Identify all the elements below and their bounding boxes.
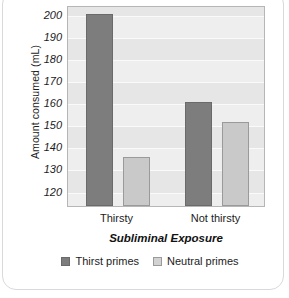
y-axis-tick-label: 190 (44, 31, 62, 43)
bar-chart-figure: Amount consumed (mL) 1201301401501601701… (0, 0, 289, 298)
bar-series-group (68, 7, 264, 206)
legend-item-label: Neutral primes (167, 255, 239, 267)
y-axis-tick-labels: 120130140150160170180190200 (0, 0, 67, 213)
legend-item-neutral-primes: Neutral primes (153, 255, 239, 267)
y-axis-tick-label: 200 (44, 9, 62, 21)
y-axis-tick-label: 140 (44, 141, 62, 153)
chart-legend: Thirst primes Neutral primes (50, 255, 250, 267)
x-axis-title: Subliminal Exposure (67, 232, 265, 244)
bar (86, 14, 113, 206)
y-axis-tick-label: 160 (44, 97, 62, 109)
y-axis-tick-label: 170 (44, 75, 62, 87)
y-axis-tick-label: 150 (44, 119, 62, 131)
y-axis-tick-label: 130 (44, 163, 62, 175)
y-axis-tick-label: 120 (44, 186, 62, 198)
legend-swatch-icon (61, 257, 70, 266)
bar (185, 102, 212, 206)
legend-swatch-icon (153, 257, 162, 266)
bar (123, 157, 150, 206)
plot-area (67, 6, 265, 207)
x-axis-tick-label: Not thirsty (191, 212, 241, 224)
legend-item-label: Thirst primes (75, 255, 139, 267)
y-axis-tick-label: 180 (44, 53, 62, 65)
legend-item-thirst-primes: Thirst primes (61, 255, 139, 267)
x-axis-tick-labels: ThirstyNot thirsty (67, 212, 265, 230)
bar (222, 122, 249, 206)
x-axis-tick-label: Thirsty (100, 212, 133, 224)
